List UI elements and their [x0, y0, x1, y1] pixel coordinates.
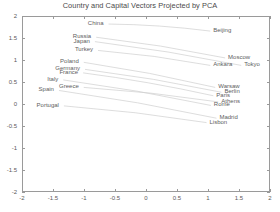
y-axis-tick: [22, 126, 25, 127]
y-axis-tick-right: [267, 148, 270, 149]
x-axis-tick-label: 2: [268, 195, 271, 201]
country-label: Portugal: [37, 102, 59, 108]
x-axis-tick-top: [208, 16, 209, 19]
x-axis-tick: [208, 189, 209, 192]
y-axis-tick-label: 0.5: [0, 79, 17, 85]
x-axis-tick-label: -1: [81, 195, 86, 201]
country-label: Turkey: [75, 46, 93, 52]
plot-area: [22, 16, 270, 192]
country-capital-connector: [83, 73, 213, 96]
x-axis-tick-top: [53, 16, 54, 19]
x-axis-tick: [84, 189, 85, 192]
y-axis-tick-right: [267, 82, 270, 83]
country-capital-connector: [63, 80, 211, 106]
x-axis-tick-label: 1.5: [235, 195, 243, 201]
y-axis-tick-right: [267, 16, 270, 17]
y-axis-tick-label: -2: [0, 189, 17, 195]
x-axis-tick-top: [146, 16, 147, 19]
country-label: China: [88, 20, 104, 26]
country-capital-connector: [84, 87, 219, 102]
y-axis-tick-right: [267, 192, 270, 193]
country-capital-connector: [98, 50, 210, 65]
x-axis-tick-top: [239, 16, 240, 19]
y-axis-tick-label: 0: [0, 101, 17, 107]
y-axis-tick-label: 2: [0, 13, 17, 19]
x-axis-tick-label: 1: [206, 195, 209, 201]
country-label: Spain: [39, 86, 54, 92]
x-axis-tick: [146, 189, 147, 192]
country-capital-connector: [59, 90, 216, 118]
country-label: Greece: [59, 83, 79, 89]
y-axis-tick-right: [267, 126, 270, 127]
y-axis-tick-right: [267, 60, 270, 61]
capital-label: Moscow: [228, 54, 250, 60]
country-capital-connector: [109, 24, 211, 31]
country-label: Poland: [60, 58, 79, 64]
country-label: Italy: [47, 76, 58, 82]
x-axis-tick: [53, 189, 54, 192]
y-axis-tick: [22, 38, 25, 39]
y-axis-tick-label: -1: [0, 145, 17, 151]
y-axis-tick: [22, 60, 25, 61]
x-axis-tick-top: [177, 16, 178, 19]
capital-label: Athens: [221, 98, 240, 104]
y-axis-tick: [22, 148, 25, 149]
x-axis-tick-label: -1.5: [48, 195, 58, 201]
y-axis-tick-label: -0.5: [0, 123, 17, 129]
x-axis-tick: [115, 189, 116, 192]
country-capital-connector: [64, 106, 207, 123]
y-axis-tick-label: -1.5: [0, 167, 17, 173]
country-capital-connector: [96, 37, 225, 58]
y-axis-tick: [22, 192, 25, 193]
y-axis-tick-right: [267, 38, 270, 39]
country-label: Japan: [74, 38, 90, 44]
y-axis-tick: [22, 82, 25, 83]
x-axis-tick: [239, 189, 240, 192]
capital-label: Paris: [216, 92, 230, 98]
y-axis-tick: [22, 170, 25, 171]
y-axis-tick-label: 1.5: [0, 35, 17, 41]
y-axis-tick-label: 1: [0, 57, 17, 63]
y-axis-tick: [22, 16, 25, 17]
x-axis-tick-top: [84, 16, 85, 19]
x-axis-tick-label: -0.5: [110, 195, 120, 201]
x-axis-tick-top: [270, 16, 271, 19]
x-axis-tick: [270, 189, 271, 192]
country-label: France: [59, 69, 78, 75]
y-axis-tick: [22, 104, 25, 105]
capital-label: Ankara: [213, 61, 232, 67]
x-axis-tick-label: -2: [19, 195, 24, 201]
pca-scatter-figure: Country and Capital Vectors Projected by…: [0, 0, 280, 212]
x-axis-tick-top: [115, 16, 116, 19]
capital-label: Beijing: [213, 27, 231, 33]
country-capital-connector: [84, 62, 215, 87]
capital-label: Tokyo: [244, 61, 260, 67]
y-axis-tick-right: [267, 104, 270, 105]
capital-label: Lisbon: [210, 119, 228, 125]
x-axis-tick-label: 0.5: [173, 195, 181, 201]
vector-connector-lines: [23, 17, 271, 193]
x-axis-tick: [177, 189, 178, 192]
y-axis-tick-right: [267, 170, 270, 171]
x-axis-tick-label: 0: [144, 195, 147, 201]
page-title: Country and Capital Vectors Projected by…: [0, 1, 280, 10]
